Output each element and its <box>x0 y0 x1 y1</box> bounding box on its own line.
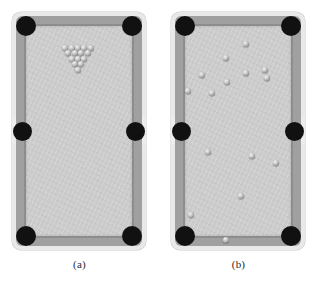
panel-b-caption: (b) <box>159 258 318 270</box>
pocket-middle-left <box>172 122 191 141</box>
billiard-table-b <box>171 12 305 250</box>
pocket-middle-left <box>13 122 32 141</box>
table-cloth-surface <box>185 26 291 236</box>
pocket-top-right <box>122 16 142 36</box>
panel-a-caption: (a) <box>0 258 159 270</box>
pocket-bottom-right <box>281 226 301 246</box>
pocket-middle-right <box>126 122 145 141</box>
pocket-top-left <box>175 16 195 36</box>
pocket-bottom-right <box>122 226 142 246</box>
billiard-ball <box>75 67 81 73</box>
billiard-table-a <box>12 12 146 250</box>
pocket-middle-right <box>285 122 304 141</box>
pocket-top-left <box>16 16 36 36</box>
pocket-bottom-left <box>16 226 36 246</box>
panel-a-racked-table: (a) <box>0 0 159 284</box>
figure-root: (a) (b) <box>0 0 318 284</box>
panel-b-scattered-table: (b) <box>159 0 318 284</box>
pocket-bottom-left <box>175 226 195 246</box>
pocket-top-right <box>281 16 301 36</box>
